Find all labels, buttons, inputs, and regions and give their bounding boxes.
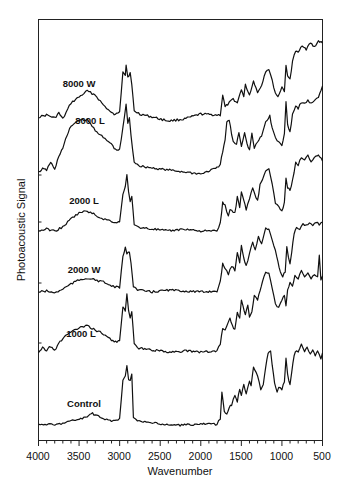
spectrum-8000-l — [39, 86, 323, 174]
x-tick-label-1000: 1000 — [270, 450, 294, 462]
series-label-1000l: 1000 L — [66, 328, 96, 339]
x-tick-label-2000: 2000 — [189, 450, 213, 462]
series-label-8000w: 8000 W — [63, 78, 96, 89]
series-label-2000l: 2000 L — [69, 195, 99, 206]
spectrum-2000-w — [39, 222, 323, 293]
x-axis-title: Wavenumber — [147, 465, 212, 477]
spectrum-control — [39, 344, 323, 426]
series-label-2000w: 2000 W — [68, 264, 101, 275]
x-tick-label-3500: 3500 — [67, 450, 91, 462]
y-axis-title: Photoacoustic Signal — [15, 179, 27, 282]
spectra-chart: 8000 W 8000 L 2000 L 2000 W 1000 L Contr… — [0, 0, 345, 494]
x-tick-label-3000: 3000 — [107, 450, 131, 462]
x-tick-label-500: 500 — [313, 450, 331, 462]
x-tick-label-2500: 2500 — [148, 450, 172, 462]
spectrum-2000-l — [39, 155, 323, 232]
series-label-control: Control — [67, 398, 101, 409]
x-tick-label-4000: 4000 — [26, 450, 50, 462]
x-tick-label-1500: 1500 — [229, 450, 253, 462]
series-label-8000l: 8000 L — [75, 115, 105, 126]
spectra-group — [39, 41, 323, 426]
x-axis-ticks — [39, 441, 323, 447]
